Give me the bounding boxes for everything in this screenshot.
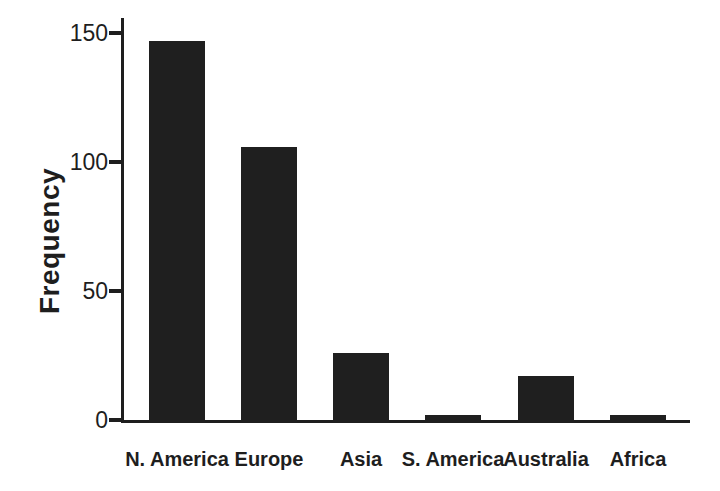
bar-africa — [610, 415, 666, 423]
y-tick-mark-50 — [109, 289, 122, 293]
y-tick-label-100: 100 — [34, 148, 108, 176]
y-tick-label-150: 150 — [34, 19, 108, 47]
bar-n-america — [149, 41, 205, 423]
y-axis-line — [121, 18, 124, 423]
x-label-africa: Africa — [573, 448, 703, 470]
frequency-bar-chart: Frequency 050100150 N. AmericaEuropeAsia… — [0, 0, 720, 491]
y-tick-mark-100 — [109, 160, 122, 164]
y-tick-label-50: 50 — [34, 277, 108, 305]
y-tick-mark-150 — [109, 31, 122, 35]
bar-asia — [333, 353, 389, 423]
y-tick-mark-0 — [109, 418, 122, 422]
x-axis-line — [121, 420, 690, 423]
bar-australia — [518, 376, 574, 423]
bar-europe — [241, 147, 297, 423]
y-tick-label-0: 0 — [34, 406, 108, 434]
bar-s-america — [425, 415, 481, 423]
